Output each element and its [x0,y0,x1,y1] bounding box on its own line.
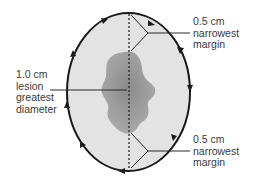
lesion-label: 1.0 cm lesion greatest diameter [16,69,57,115]
lesion-value: 1.0 cm [16,69,57,81]
top-margin-value: 0.5 cm [193,16,239,28]
top-margin-text-2: margin [193,39,239,51]
lesion-text-2: greatest [16,92,57,104]
bottom-margin-label: 0.5 cm narrowest margin [193,134,239,169]
lesion-text-3: diameter [16,104,57,116]
bottom-margin-value: 0.5 cm [193,134,239,146]
top-margin-label: 0.5 cm narrowest margin [193,16,239,51]
bottom-margin-text-2: margin [193,157,239,169]
